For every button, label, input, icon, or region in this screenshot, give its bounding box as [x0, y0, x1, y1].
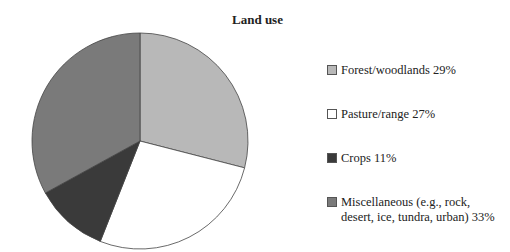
- legend-label: Crops 11%: [341, 151, 396, 166]
- legend-swatch: [327, 197, 337, 207]
- legend-item-miscellaneous: Miscellaneous (e.g., rock, desert, ice, …: [327, 195, 495, 225]
- legend-label: Forest/woodlands 29%: [341, 63, 456, 78]
- legend-swatch: [327, 109, 337, 119]
- legend-swatch: [327, 65, 337, 75]
- legend-label: Miscellaneous (e.g., rock, desert, ice, …: [341, 195, 495, 225]
- legend-swatch: [327, 153, 337, 163]
- legend-item-pasture: Pasture/range 27%: [327, 107, 435, 122]
- legend-label: Pasture/range 27%: [341, 107, 435, 122]
- legend-item-crops: Crops 11%: [327, 151, 396, 166]
- legend-item-forest: Forest/woodlands 29%: [327, 63, 456, 78]
